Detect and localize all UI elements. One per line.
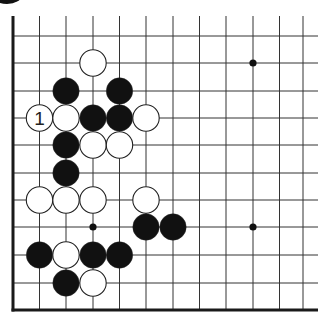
black-stone-icon [80, 105, 106, 131]
star-point-icon [249, 59, 256, 66]
black-stone [53, 270, 79, 296]
black-stone-icon [26, 242, 52, 268]
black-stone [133, 214, 159, 240]
move-number-label: 1 [34, 108, 45, 129]
black-stone [160, 214, 186, 240]
white-stone [133, 105, 159, 131]
black-stone [53, 132, 79, 158]
white-stone-icon [133, 187, 159, 213]
white-stone-icon [26, 187, 52, 213]
black-stone-icon [106, 105, 132, 131]
black-stone [80, 105, 106, 131]
white-stone-icon [53, 105, 79, 131]
white-stone: 1 [26, 105, 52, 131]
black-stone [106, 78, 132, 104]
white-stone-icon [80, 187, 106, 213]
white-stone [53, 187, 79, 213]
white-stone-icon [53, 187, 79, 213]
black-stone-icon [53, 270, 79, 296]
white-stone-icon [133, 105, 159, 131]
black-stone [80, 242, 106, 268]
white-stone-icon [80, 132, 106, 158]
white-stone-icon [80, 270, 106, 296]
white-stone [133, 187, 159, 213]
white-stone-icon [80, 50, 106, 76]
star-point-icon [249, 223, 256, 230]
black-stone-icon [80, 242, 106, 268]
white-stone [53, 242, 79, 268]
black-stone-icon [106, 242, 132, 268]
white-stone [80, 270, 106, 296]
black-stone [53, 78, 79, 104]
black-stone-icon [133, 214, 159, 240]
black-stone-icon [106, 78, 132, 104]
white-stone [26, 187, 52, 213]
white-stone-icon [106, 132, 132, 158]
white-stone [80, 132, 106, 158]
black-stone [53, 160, 79, 186]
white-stone [80, 187, 106, 213]
black-stone-icon [53, 132, 79, 158]
star-point-icon [89, 223, 96, 230]
black-stone-icon [53, 160, 79, 186]
white-stone [106, 132, 132, 158]
black-stone-icon [160, 214, 186, 240]
black-stone [26, 242, 52, 268]
black-stone [106, 242, 132, 268]
white-stone-icon [53, 242, 79, 268]
white-stone [80, 50, 106, 76]
black-stone [106, 105, 132, 131]
go-board: 1 [0, 0, 329, 326]
black-stone-icon [53, 78, 79, 104]
white-stone [53, 105, 79, 131]
